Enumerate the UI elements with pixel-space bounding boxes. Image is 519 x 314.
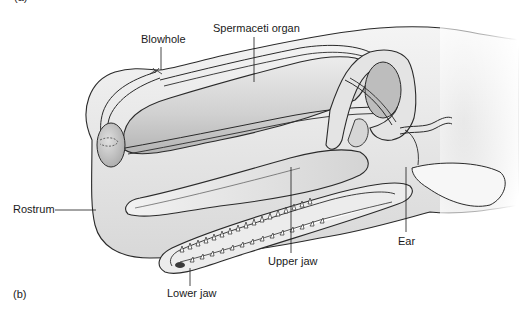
label-spermaceti-organ: Spermaceti organ: [213, 22, 300, 34]
label-ear: Ear: [398, 235, 415, 247]
label-blowhole: Blowhole: [141, 33, 186, 45]
panel-label-a: (a): [14, 0, 27, 3]
frontal-sac: [97, 123, 125, 167]
panel-label-b: (b): [13, 288, 26, 300]
diagram-canvas: (a) (b) Blowhole Spermaceti organ Rostru…: [0, 0, 519, 314]
label-upper-jaw: Upper jaw: [268, 255, 318, 267]
label-lower-jaw: Lower jaw: [167, 287, 217, 299]
whale-head-illustration: [0, 0, 519, 314]
label-rostrum: Rostrum: [13, 203, 55, 215]
